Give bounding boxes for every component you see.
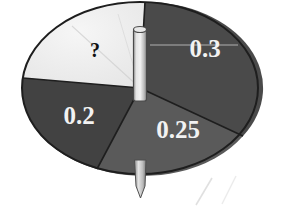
sector-label-0-3: 0.3	[189, 35, 220, 62]
needle-cap	[134, 27, 147, 33]
spinner-chart: 0.3 0.25 0.2 ?	[0, 0, 281, 220]
sector-label-0-25: 0.25	[156, 116, 200, 143]
scan-artifact-a	[196, 178, 212, 205]
scan-artifact-b	[222, 176, 236, 204]
sector-label-unknown: ?	[90, 39, 100, 61]
sector-label-0-2: 0.2	[63, 102, 94, 129]
needle-shaft[interactable]	[134, 29, 147, 101]
spinner-figure: 0.3 0.25 0.2 ?	[0, 0, 281, 220]
needle-tip	[135, 160, 147, 198]
